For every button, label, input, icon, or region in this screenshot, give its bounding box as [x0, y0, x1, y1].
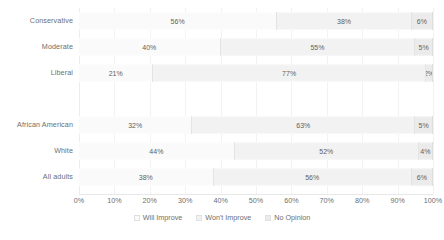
legend-swatch-icon	[265, 215, 271, 221]
bar-segment-value: 56%	[305, 174, 319, 181]
bar-row: Conservative56%38%6%	[79, 8, 433, 34]
bar-row-spacer	[79, 86, 433, 112]
stacked-bar: 44%52%4%	[79, 142, 433, 160]
bar-segment-value: 55%	[310, 44, 324, 51]
bar-segment: 32%	[79, 116, 192, 134]
bar-segment-value: 40%	[142, 44, 156, 51]
bar-row: Moderate40%55%5%	[79, 34, 433, 60]
bar-segment-value: 5%	[419, 122, 429, 129]
bar-segment: 56%	[79, 12, 277, 30]
x-axis-tick-label: 80%	[355, 196, 369, 205]
bar-segment: 44%	[79, 142, 235, 160]
bar-segment: 4%	[419, 142, 433, 160]
x-axis: 0%10%20%30%40%50%60%70%80%90%100%	[79, 196, 433, 208]
bar-segment-value: 38%	[337, 18, 351, 25]
bar-segment: 63%	[192, 116, 415, 134]
bar-segment: 38%	[277, 12, 412, 30]
legend-swatch-icon	[134, 215, 140, 221]
legend-item[interactable]: Won't Improve	[196, 213, 251, 222]
legend-label: Won't Improve	[205, 213, 251, 222]
x-axis-baseline	[79, 194, 433, 195]
x-axis-tick-label: 30%	[178, 196, 192, 205]
x-axis-tick-label: 0%	[74, 196, 84, 205]
bar-segment-value: 63%	[296, 122, 310, 129]
category-label: Moderate	[42, 34, 73, 60]
stacked-bar: 38%56%6%	[79, 168, 433, 186]
bar-segment: 52%	[235, 142, 419, 160]
bar-segment: 5%	[415, 38, 433, 56]
bar-segment: 2%	[426, 64, 433, 82]
bar-segment-value: 6%	[417, 18, 427, 25]
bar-segment: 40%	[79, 38, 221, 56]
x-axis-tick-label: 90%	[390, 196, 404, 205]
x-axis-tick-label: 100%	[424, 196, 442, 205]
bar-segment: 6%	[412, 168, 433, 186]
category-label: White	[54, 138, 73, 164]
legend-swatch-icon	[196, 215, 202, 221]
bar-segment-value: 5%	[419, 44, 429, 51]
bar-segment: 21%	[79, 64, 153, 82]
bar-segment-value: 56%	[171, 18, 185, 25]
bar-segment-value: 4%	[420, 148, 430, 155]
bar-segment-value: 38%	[139, 174, 153, 181]
legend-item[interactable]: No Opinion	[265, 213, 310, 222]
stacked-bar: 21%77%2%	[79, 64, 433, 82]
stacked-bar: 32%63%5%	[79, 116, 433, 134]
bar-segment-value: 21%	[109, 70, 123, 77]
x-axis-tick-label: 10%	[107, 196, 121, 205]
bar-segment-value: 77%	[282, 70, 296, 77]
category-label: Liberal	[51, 60, 73, 86]
bar-segment: 5%	[415, 116, 433, 134]
legend-label: Will Improve	[143, 213, 183, 222]
plot-area: Conservative56%38%6%Moderate40%55%5%Libe…	[79, 8, 433, 194]
bar-segment-value: 52%	[319, 148, 333, 155]
bar-segment: 55%	[221, 38, 416, 56]
stacked-bar-chart: Conservative56%38%6%Moderate40%55%5%Libe…	[0, 0, 444, 240]
bar-segment-value: 6%	[417, 174, 427, 181]
bar-segment-value: 32%	[128, 122, 142, 129]
category-label: All adults	[43, 164, 73, 190]
legend-label: No Opinion	[274, 213, 310, 222]
gridline	[433, 8, 434, 194]
stacked-bar: 40%55%5%	[79, 38, 433, 56]
legend-item[interactable]: Will Improve	[134, 213, 183, 222]
category-label: African American	[17, 112, 73, 138]
bar-row: All adults38%56%6%	[79, 164, 433, 190]
bar-segment: 6%	[412, 12, 433, 30]
category-label: Conservative	[30, 8, 73, 34]
bar-segment: 38%	[79, 168, 214, 186]
x-axis-tick-label: 70%	[320, 196, 334, 205]
bar-row: White44%52%4%	[79, 138, 433, 164]
bar-segment-value: 44%	[149, 148, 163, 155]
x-axis-tick-label: 40%	[213, 196, 227, 205]
x-axis-tick-label: 60%	[284, 196, 298, 205]
bar-row: African American32%63%5%	[79, 112, 433, 138]
chart-legend: Will ImproveWon't ImproveNo Opinion	[0, 213, 444, 222]
bar-segment: 56%	[214, 168, 412, 186]
bar-row: Liberal21%77%2%	[79, 60, 433, 86]
bar-segment-value: 2%	[426, 70, 433, 77]
bar-segment: 77%	[153, 64, 426, 82]
x-axis-tick-label: 50%	[249, 196, 263, 205]
stacked-bar: 56%38%6%	[79, 12, 433, 30]
x-axis-tick-label: 20%	[143, 196, 157, 205]
